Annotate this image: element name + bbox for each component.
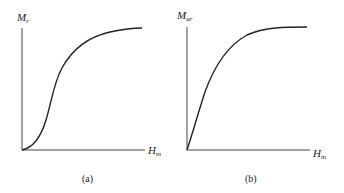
panel-b: Mar Hm (b) [165,0,337,193]
panel-b-plot [165,0,344,193]
sigmoid-curve [22,28,142,150]
saturation-curve [187,27,307,150]
y-axis-label: Mar [177,10,192,23]
panel-a-plot [0,0,172,193]
y-axis-label: Mr [17,12,29,25]
panel-a: Mr Hm (a) [0,0,172,193]
x-axis-label: Hm [148,145,161,158]
panel-caption: (b) [245,174,257,184]
panel-caption: (a) [82,174,93,184]
x-axis-label: Hm [313,148,326,161]
